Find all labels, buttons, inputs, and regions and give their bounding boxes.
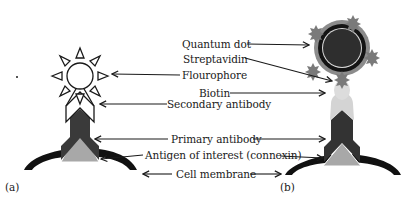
label-antigen: Antigen of interest (connexin) bbox=[145, 149, 301, 161]
label-flourophore: Flourophore bbox=[182, 69, 247, 81]
label-cell-membrane: Cell membrane bbox=[176, 168, 256, 180]
fluorophore-icon bbox=[52, 48, 108, 104]
panel-label-a: (a) bbox=[5, 181, 19, 193]
panel-b-structure bbox=[285, 15, 401, 175]
arrow-quantum-dot bbox=[247, 44, 309, 45]
arrow-flourophore bbox=[112, 74, 180, 75]
label-streptavidin: Streptavidin bbox=[183, 53, 248, 65]
label-secondary-antibody: Secondary antibody bbox=[167, 98, 271, 110]
stray-dot bbox=[16, 76, 18, 78]
panel-label-b: (b) bbox=[280, 181, 295, 193]
label-quantum-dot: Quantum dot bbox=[182, 38, 251, 50]
panel-a-structure bbox=[24, 48, 137, 170]
quantum-dot-icon bbox=[314, 20, 370, 76]
label-primary-antibody: Primary antibody bbox=[171, 133, 262, 145]
